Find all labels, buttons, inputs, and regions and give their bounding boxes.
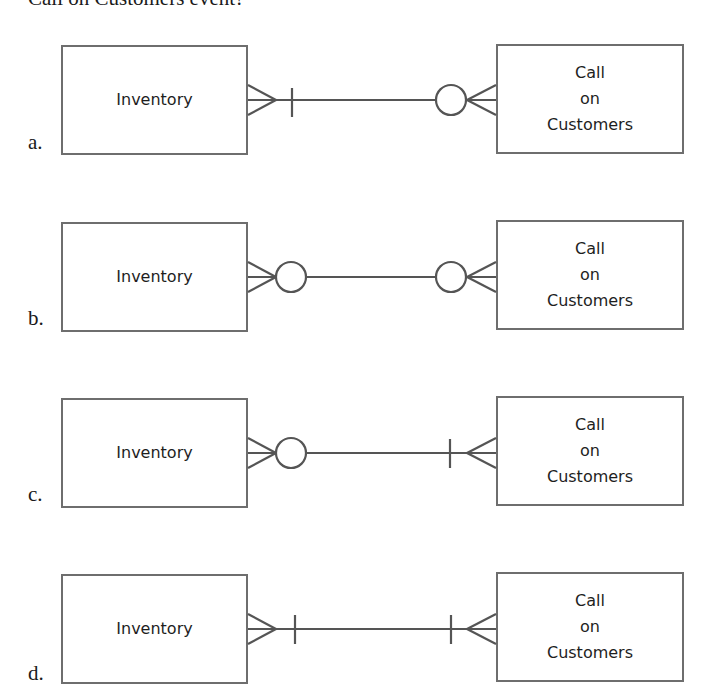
relationship-line	[0, 0, 712, 176]
option-b[interactable]: b. Inventory Call on Customers	[0, 176, 712, 352]
option-c[interactable]: c. Inventory Call on Customers	[0, 352, 712, 528]
option-d[interactable]: d. Inventory Call on Customers	[0, 528, 712, 698]
relationship-line	[0, 528, 712, 698]
relationship-line	[0, 352, 712, 528]
optional-circle-icon	[276, 262, 306, 292]
option-a[interactable]: a. Inventory Call on Customers	[0, 0, 712, 176]
relationship-line	[0, 176, 712, 352]
optional-circle-icon	[436, 262, 466, 292]
optional-circle-icon	[276, 438, 306, 468]
optional-circle-icon	[436, 85, 466, 115]
